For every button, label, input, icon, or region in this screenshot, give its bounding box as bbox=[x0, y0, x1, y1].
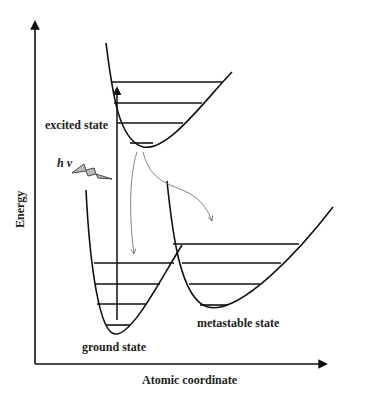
excited-state-curve bbox=[106, 43, 232, 147]
metastable-state-curve bbox=[167, 181, 333, 308]
axes bbox=[35, 22, 326, 364]
photon-symbol: h ν bbox=[57, 156, 73, 170]
ground-state-curve bbox=[86, 190, 182, 334]
diagram-canvas: excited state ground state metastable st… bbox=[0, 0, 366, 403]
y-axis-label: Energy bbox=[13, 191, 27, 228]
relaxation-to-ground-arrow bbox=[131, 152, 137, 254]
transfer-to-metastable-arrow bbox=[143, 152, 212, 221]
metastable-state-label: metastable state bbox=[197, 316, 280, 330]
energy-level-diagram: excited state ground state metastable st… bbox=[0, 0, 366, 403]
ground-state-label: ground state bbox=[82, 340, 147, 354]
x-axis-label: Atomic coordinate bbox=[142, 373, 238, 387]
lightning-bolt-icon bbox=[72, 164, 112, 179]
excited-state-label: excited state bbox=[45, 118, 109, 132]
